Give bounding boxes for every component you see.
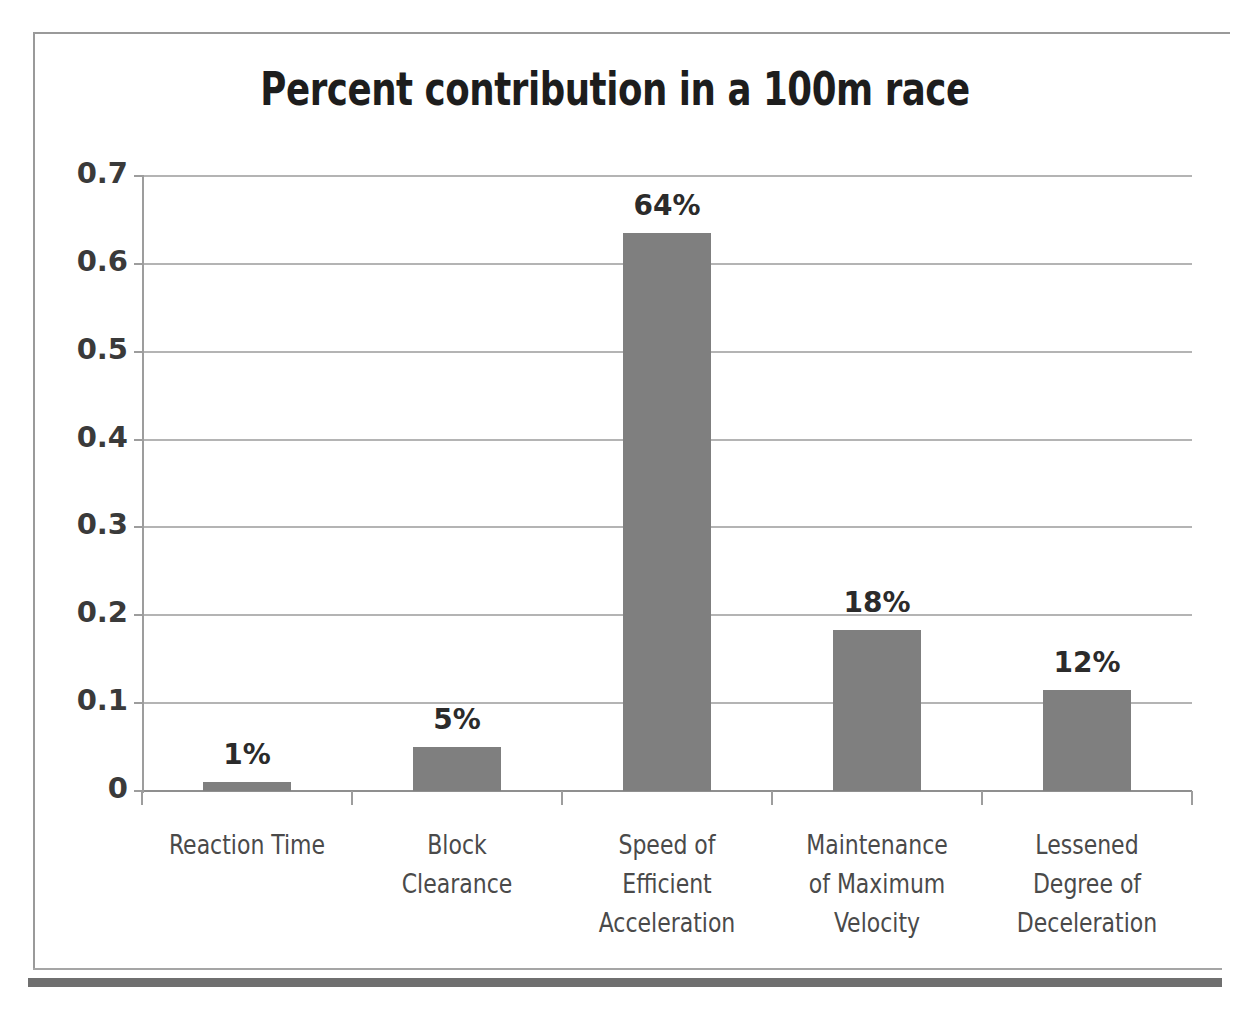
- x-axis-label-line: Velocity: [778, 904, 975, 943]
- x-axis-label-line: Speed of: [568, 826, 765, 865]
- y-axis-label: 0.5: [18, 332, 128, 366]
- x-axis-label-line: Clearance: [358, 865, 555, 904]
- plot-area: 0.70.60.50.40.30.20.101%Reaction Time5%B…: [0, 0, 1250, 1017]
- bar-value-label: 1%: [157, 738, 337, 771]
- x-axis-category-label: BlockClearance: [358, 826, 555, 904]
- x-axis-category-label: Speed ofEfficientAcceleration: [568, 826, 765, 943]
- x-axis-tick: [981, 791, 983, 805]
- y-axis-label: 0.4: [18, 420, 128, 454]
- x-axis-label-line: Degree of: [988, 865, 1185, 904]
- y-axis-label: 0.7: [18, 156, 128, 190]
- y-axis-label: 0: [18, 771, 128, 805]
- x-axis-label-line: Block: [358, 826, 555, 865]
- x-axis-label-line: of Maximum: [778, 865, 975, 904]
- chart-page: Percent contribution in a 100m race 0.70…: [0, 0, 1250, 1017]
- bar: [203, 782, 291, 791]
- bar-value-label: 12%: [997, 646, 1177, 679]
- x-axis-tick: [1191, 791, 1193, 805]
- x-axis-label-line: Efficient: [568, 865, 765, 904]
- bar-value-label: 64%: [577, 189, 757, 222]
- x-axis-category-label: LessenedDegree ofDeceleration: [988, 826, 1185, 943]
- x-axis-category-label: Maintenanceof MaximumVelocity: [778, 826, 975, 943]
- y-axis-line: [142, 176, 144, 793]
- y-axis-label: 0.6: [18, 244, 128, 278]
- x-axis-tick: [771, 791, 773, 805]
- x-axis-label-line: Deceleration: [988, 904, 1185, 943]
- gridline: [142, 175, 1192, 177]
- bar: [413, 747, 501, 791]
- x-axis-label-line: Acceleration: [568, 904, 765, 943]
- y-axis-label: 0.3: [18, 507, 128, 541]
- bar: [833, 630, 921, 791]
- x-axis-category-label: Reaction Time: [148, 826, 345, 865]
- x-axis-tick: [561, 791, 563, 805]
- y-axis-label: 0.2: [18, 595, 128, 629]
- x-axis-label-line: Maintenance: [778, 826, 975, 865]
- bar-value-label: 5%: [367, 703, 547, 736]
- x-axis-label-line: Lessened: [988, 826, 1185, 865]
- x-axis-tick: [141, 791, 143, 805]
- y-axis-label: 0.1: [18, 683, 128, 717]
- x-axis-label-line: Reaction Time: [148, 826, 345, 865]
- bar-value-label: 18%: [787, 586, 967, 619]
- bar: [1043, 690, 1131, 791]
- bar: [623, 233, 711, 791]
- x-axis-tick: [351, 791, 353, 805]
